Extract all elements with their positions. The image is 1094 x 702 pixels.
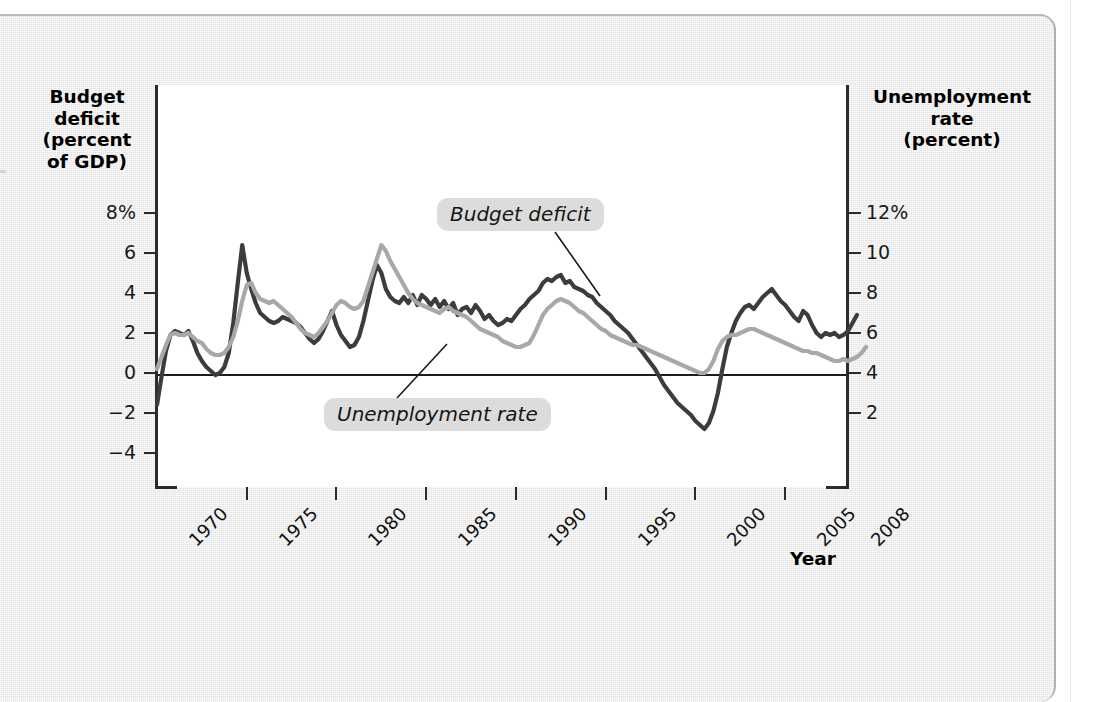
left-axis-title: Budget deficit (percent of GDP) xyxy=(28,86,146,173)
left-axis-title-line-4: of GDP) xyxy=(28,151,146,173)
figure-page: Budget deficit (percent of GDP) Unemploy… xyxy=(0,0,1094,702)
left-axis-tick-label-6: −4 xyxy=(66,443,136,462)
left-axis-title-line-1: Budget xyxy=(28,86,146,108)
left-axis-tick-2 xyxy=(144,292,157,294)
right-axis-tick-label-3: 6 xyxy=(866,323,878,342)
left-axis-tick-6 xyxy=(144,452,157,454)
right-axis-tick-0 xyxy=(848,212,861,214)
x-axis-tick-4 xyxy=(515,487,517,500)
x-axis-tick-2 xyxy=(335,487,337,500)
right-axis-tick-label-1: 10 xyxy=(866,243,890,262)
right-axis-title: Unemployment rate (percent) xyxy=(862,86,1042,151)
right-axis-title-line-1: Unemployment xyxy=(862,86,1042,108)
right-axis-tick-4 xyxy=(848,372,861,374)
left-axis-tick-4 xyxy=(144,372,157,374)
x-axis-tick-6 xyxy=(694,487,696,500)
x-axis-tick-3 xyxy=(425,487,427,500)
left-axis-title-line-3: (percent xyxy=(28,129,146,151)
x-axis-tick-1 xyxy=(246,487,248,500)
left-axis-tick-label-3: 2 xyxy=(66,323,136,342)
x-axis-tick-7 xyxy=(784,487,786,500)
left-axis-tick-label-5: −2 xyxy=(66,403,136,422)
unemployment-rate-callout: Unemployment rate xyxy=(324,398,551,431)
right-axis-tick-3 xyxy=(848,332,861,334)
left-axis-tick-0 xyxy=(144,212,157,214)
right-axis-tick-label-5: 2 xyxy=(866,403,878,422)
budget-deficit-callout: Budget deficit xyxy=(437,198,604,231)
left-axis-title-line-2: deficit xyxy=(28,108,146,130)
x-axis-tick-5 xyxy=(605,487,607,500)
left-axis-tick-3 xyxy=(144,332,157,334)
left-axis-tick-label-2: 4 xyxy=(66,283,136,302)
left-axis-tick-label-1: 6 xyxy=(66,243,136,262)
right-axis-title-line-3: (percent) xyxy=(862,129,1042,151)
left-axis-tick-5 xyxy=(144,412,157,414)
left-axis-tick-label-4: 0 xyxy=(66,363,136,382)
left-axis-tick-label-0: 8% xyxy=(66,203,136,222)
x-axis-title: Year xyxy=(790,548,836,569)
right-axis-tick-2 xyxy=(848,292,861,294)
right-axis-tick-5 xyxy=(848,412,861,414)
right-axis-tick-label-0: 12% xyxy=(866,203,908,222)
right-axis-tick-1 xyxy=(848,252,861,254)
page-edge-rule xyxy=(1070,0,1071,702)
left-axis-tick-1 xyxy=(144,252,157,254)
right-axis-tick-label-2: 8 xyxy=(866,283,878,302)
right-axis-tick-label-4: 4 xyxy=(866,363,878,382)
left-margin-mark xyxy=(0,170,6,173)
right-axis-title-line-2: rate xyxy=(862,108,1042,130)
series-line-unemployment-rate xyxy=(157,245,866,373)
